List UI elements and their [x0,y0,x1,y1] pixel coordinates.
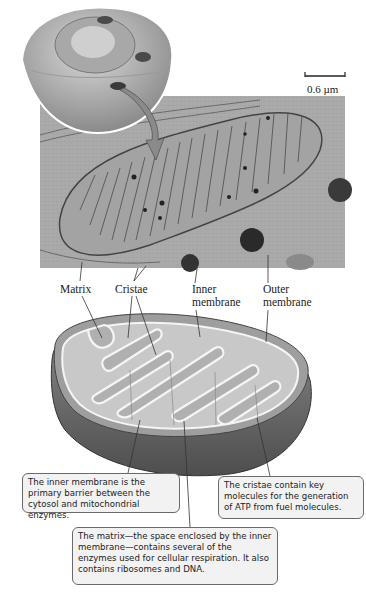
label-inner-membrane-line1: Inner [192,283,241,296]
label-outer-membrane-line2: membrane [263,296,312,309]
callout-inner-membrane: The inner membrane is the primary barrie… [22,473,180,513]
label-matrix: Matrix [60,283,91,296]
label-outer-membrane-line1: Outer [263,283,312,296]
label-inner-membrane: Inner membrane [192,283,241,309]
callout-matrix: The matrix—the space enclosed by the inn… [72,527,278,585]
label-inner-membrane-line2: membrane [192,296,241,309]
scale-bar [305,72,345,77]
callout-cristae: The cristae contain key molecules for th… [218,476,364,519]
label-cristae: Cristae [115,283,148,296]
scale-bar-label: 0.6 µm [307,83,338,95]
mitochondrion-diagram [51,314,311,476]
label-outer-membrane: Outer membrane [263,283,312,309]
